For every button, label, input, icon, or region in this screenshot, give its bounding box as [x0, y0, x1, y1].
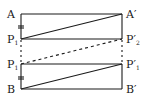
upper-strip: [21, 14, 122, 39]
geometry-diagram: A A′ P1 P′2 P1 P′1 B B′: [0, 0, 146, 105]
label-P1-upper: P1: [7, 33, 18, 46]
label-P1prime: P′1: [126, 58, 140, 71]
lower-strip: [21, 64, 122, 89]
dashed-diagonal-P1-P2prime: [21, 39, 122, 64]
diagonal-B-P1prime: [21, 64, 122, 89]
label-B: B: [7, 83, 15, 96]
label-Bprime: B′: [126, 83, 137, 96]
label-P2prime: P′2: [126, 33, 140, 46]
point-labels: A A′ P1 P′2 P1 P′1 B B′: [6, 8, 140, 96]
label-Aprime: A′: [125, 8, 137, 21]
gap-markers: [21, 39, 122, 64]
diagonal-P1-Aprime: [21, 14, 122, 39]
label-P1-lower: P1: [7, 58, 18, 71]
label-A: A: [6, 8, 16, 21]
